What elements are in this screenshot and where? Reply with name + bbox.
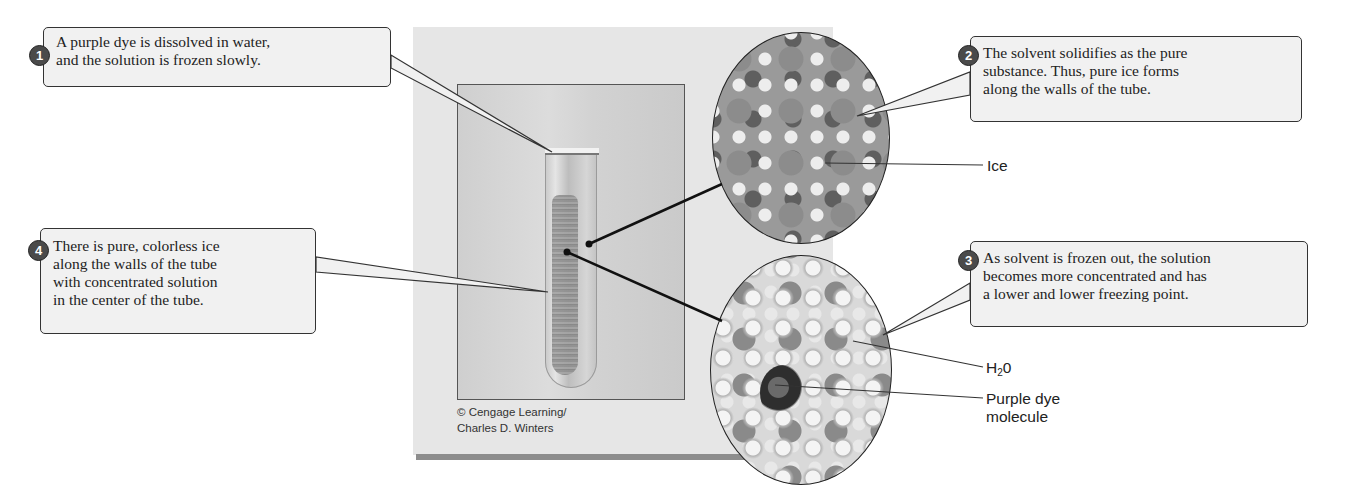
- test-tube-rim: [545, 148, 599, 155]
- callout-3-pointer: [883, 283, 970, 335]
- ice-label: Ice: [987, 157, 1008, 175]
- callout-4-text: There is pure, colorless ice along the w…: [53, 237, 305, 309]
- photo-credit: © Cengage Learning/ Charles D. Winters: [457, 404, 617, 436]
- ice-lattice-magnified-view: [712, 32, 890, 244]
- step-1-badge: 1: [29, 45, 50, 66]
- photo-panel-shadow: [416, 454, 776, 460]
- h2o-label-o: 0: [1003, 359, 1012, 376]
- callout-3-text: As solvent is frozen out, the solution b…: [983, 249, 1297, 303]
- callout-1-text: A purple dye is dissolved in water, and …: [56, 33, 380, 69]
- step-3-badge: 3: [958, 250, 979, 271]
- solution-magnified-view: [710, 255, 892, 485]
- callout-step-1: A purple dye is dissolved in water, and …: [43, 27, 391, 87]
- callout-step-4: There is pure, colorless ice along the w…: [40, 228, 316, 334]
- callout-2-text: The solvent solidifies as the pure subst…: [983, 44, 1291, 98]
- concentrated-solution-core: [552, 195, 578, 375]
- purple-dye-molecule-label: Purple dye molecule: [986, 390, 1076, 426]
- purple-dye-molecule-cluster: [760, 365, 806, 421]
- h2o-label: H20: [986, 359, 1011, 382]
- callout-step-2: The solvent solidifies as the pure subst…: [970, 36, 1302, 122]
- h2o-label-h: H: [986, 359, 997, 376]
- step-4-badge: 4: [28, 240, 49, 261]
- step-2-badge: 2: [958, 45, 979, 66]
- callout-step-3: As solvent is frozen out, the solution b…: [970, 241, 1308, 327]
